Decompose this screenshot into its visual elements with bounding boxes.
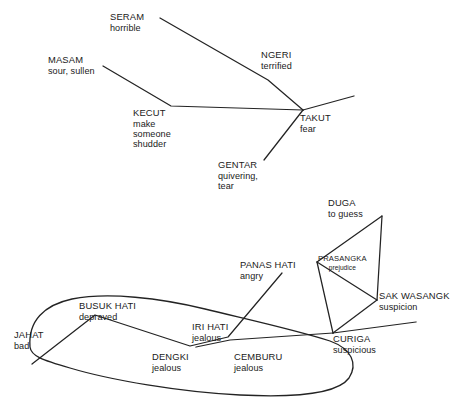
node-gloss-kecut-line2: someone	[133, 129, 171, 139]
node-label-prasangka: PRASANGKA prejudice	[318, 255, 367, 271]
node-label-takut: TAKUT fear	[300, 113, 331, 134]
node-term-masam: MASAM	[48, 55, 95, 66]
edge-masam-kecut-takut	[103, 66, 303, 110]
node-label-duga: DUGA to guess	[328, 198, 363, 219]
node-term-panas-hati: PANAS HATI	[240, 260, 296, 271]
node-gloss-busuk-hati: depraved	[79, 312, 136, 322]
node-gloss-takut: fear	[300, 124, 331, 134]
node-gloss-gentar-line1: quivering,	[218, 171, 258, 181]
node-term-gentar: GENTAR	[218, 160, 258, 171]
edge-prasangka-curiga	[317, 262, 333, 333]
node-label-iri-hati: IRI HATI jealous	[192, 322, 228, 343]
node-label-sak-wasangk: SAK WASANGK suspicion	[379, 291, 450, 312]
node-gloss-prasangka: prejudice	[318, 264, 367, 271]
node-term-iri-hati: IRI HATI	[192, 322, 228, 333]
node-gloss-kecut-line1: make	[133, 119, 171, 129]
node-term-dengki: DENGKI	[152, 352, 189, 363]
node-label-masam: MASAM sour, sullen	[48, 55, 95, 76]
node-label-seram: SERAM horrible	[110, 12, 144, 33]
node-term-takut: TAKUT	[300, 113, 331, 124]
node-gloss-ngeri: terrified	[261, 61, 292, 71]
node-label-curiga: CURIGA suspicious	[333, 334, 376, 355]
edge-takut-upper-right-branch	[303, 96, 354, 110]
node-term-jahat: JAHAT	[14, 330, 44, 341]
node-gloss-sak-wasangk: suspicion	[379, 302, 450, 312]
node-term-busuk-hati: BUSUK HATI	[79, 301, 136, 312]
edge-gentar-takut	[264, 110, 303, 160]
node-gloss-dengki: jealous	[152, 363, 189, 373]
node-gloss-seram: horrible	[110, 23, 144, 33]
node-term-kecut: KECUT	[133, 108, 171, 119]
node-gloss-iri-hati: jealous	[192, 333, 228, 343]
node-label-jahat: JAHAT bad	[14, 330, 44, 351]
node-label-kecut: KECUT make someone shudder	[133, 108, 171, 149]
node-term-curiga: CURIGA	[333, 334, 376, 345]
node-term-prasangka: PRASANGKA	[318, 255, 367, 264]
node-gloss-kecut-line3: shudder	[133, 139, 171, 149]
node-gloss-gentar-line2: tear	[218, 181, 258, 191]
semantic-network-diagram: SERAM horrible MASAM sour, sullen KECUT …	[0, 0, 455, 402]
node-term-ngeri: NGERI	[261, 50, 292, 61]
node-label-cemburu: CEMBURU jealous	[234, 352, 282, 373]
node-label-ngeri: NGERI terrified	[261, 50, 292, 71]
node-gloss-masam: sour, sullen	[48, 66, 95, 76]
node-label-gentar: GENTAR quivering, tear	[218, 160, 258, 191]
node-term-sak-wasangk: SAK WASANGK	[379, 291, 450, 302]
node-term-cemburu: CEMBURU	[234, 352, 282, 363]
node-gloss-jahat: bad	[14, 341, 44, 351]
node-term-seram: SERAM	[110, 12, 144, 23]
node-gloss-duga: to guess	[328, 209, 363, 219]
edge-duga-sakwasangk	[377, 216, 382, 300]
node-label-dengki: DENGKI jealous	[152, 352, 189, 373]
node-gloss-curiga: suspicious	[333, 345, 376, 355]
node-gloss-cemburu: jealous	[234, 363, 282, 373]
node-label-busuk-hati: BUSUK HATI depraved	[79, 301, 136, 322]
node-label-panas-hati: PANAS HATI angry	[240, 260, 296, 281]
node-term-duga: DUGA	[328, 198, 363, 209]
node-gloss-panas-hati: angry	[240, 271, 296, 281]
